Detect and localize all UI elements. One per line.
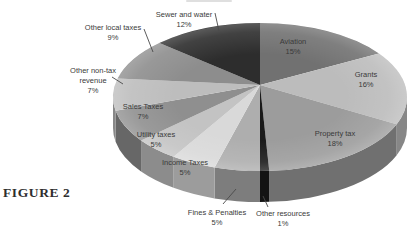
pie-label-line: 9% (85, 33, 141, 43)
pie-label-utility-taxes: Utility taxes5% (137, 130, 175, 150)
pie-label-line: Income Taxes (162, 158, 208, 168)
pie-label-fines-penalties: Fines & Penalties5% (188, 208, 246, 228)
pie-label-sales-taxes: Sales Taxes7% (123, 102, 163, 122)
pie-label-sewer-and-water: Sewer and water12% (156, 10, 212, 30)
pie-label-line: Aviation (280, 37, 307, 47)
pie-label-line: 5% (162, 168, 208, 178)
pie-label-line: 5% (137, 140, 175, 150)
pie-label-line: Grants (355, 70, 378, 80)
pie-label-line: 12% (156, 20, 212, 30)
pie-label-line: Other resources (256, 209, 310, 219)
pie-slice-side-other-resources (260, 171, 269, 202)
pie-label-line: 16% (355, 80, 378, 90)
pie-label-line: Fines & Penalties (188, 208, 246, 218)
pie-label-line: Utility taxes (137, 130, 175, 140)
pie-label-line: Sewer and water (156, 10, 212, 20)
pie-label-income-taxes: Income Taxes5% (162, 158, 208, 178)
pie-label-property-tax: Property tax18% (315, 129, 355, 149)
pie-label-other-local-taxes: Other local taxes9% (85, 23, 141, 43)
pie-label-line: revenue (70, 76, 116, 86)
pie-label-line: 7% (70, 86, 116, 96)
pie-label-line: 18% (315, 139, 355, 149)
pie-label-line: 15% (280, 47, 307, 57)
pie-label-line: Sales Taxes (123, 102, 163, 112)
pie-label-grants: Grants16% (355, 70, 378, 90)
pie-label-line: Property tax (315, 129, 355, 139)
pie-label-line: Other non-tax (70, 66, 116, 76)
pie-label-line: 7% (123, 112, 163, 122)
pie-label-aviation: Aviation15% (280, 37, 307, 57)
pie-label-line: 5% (188, 218, 246, 228)
leader-line-other-local-taxes (144, 29, 153, 52)
figure-label: FIGURE 2 (3, 185, 70, 201)
pie-label-line: 1% (256, 219, 310, 229)
pie-label-other-resources: Other resources1% (256, 209, 310, 229)
pie-label-other-non-tax-revenue: Other non-taxrevenue7% (70, 66, 116, 96)
figure-page: Aviation15%Grants16%Property tax18%Other… (0, 0, 417, 243)
pie-3d-svg (0, 0, 417, 243)
pie-slice-side-fines-penalties (215, 167, 260, 202)
pie-label-line: Other local taxes (85, 23, 141, 33)
